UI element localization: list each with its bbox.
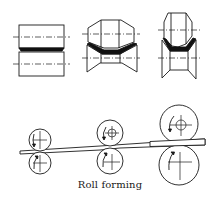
roll-forming-diagram (0, 0, 220, 199)
cross-section-flat (13, 25, 70, 76)
figure-caption: Roll forming (0, 179, 220, 190)
top-roll-flat (19, 25, 64, 48)
bottom-roll-2 (97, 148, 123, 174)
top-roll-3 (160, 105, 198, 143)
strip-flat (19, 48, 64, 51)
cross-section-shallow-v (82, 20, 140, 72)
metal-strip-end (150, 139, 205, 147)
cross-section-deep-v (158, 13, 200, 79)
strip-deep-v (163, 38, 196, 51)
bottom-roll-shallow-v (87, 45, 137, 72)
